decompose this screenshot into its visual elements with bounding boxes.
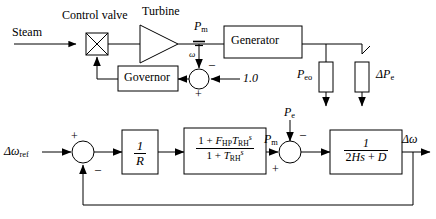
- peo-label: Peo: [297, 68, 312, 83]
- omega-label-top: ω: [189, 50, 195, 59]
- reference-one-label: 1.0: [243, 72, 258, 84]
- turbine-transfer-expression: 1 + FHPTRHs 1 + TRHs: [184, 134, 266, 163]
- pm-label-top: Pm: [194, 20, 208, 35]
- sum1-minus-sign: –: [95, 163, 101, 175]
- sum2-plus-sign: +: [272, 163, 279, 175]
- delta-omega-ref-label: Δωref: [4, 145, 29, 160]
- sum1-plus-sign: +: [71, 130, 78, 142]
- delta-omega-output-label: Δω: [402, 133, 418, 145]
- sum2-minus-sign: –: [300, 128, 306, 140]
- droop-expression: 1 R: [122, 139, 158, 168]
- generator-output-bus: [302, 44, 362, 62]
- control-valve-label: Control valve: [62, 9, 128, 21]
- delta-pe-label: ΔPe: [376, 68, 394, 83]
- bottom-summing-junction-1: [72, 141, 94, 163]
- steam-label: Steam: [12, 26, 42, 38]
- inertia-expression: 1 2Hs + D: [330, 137, 402, 164]
- load-switch-symbol: [362, 46, 370, 54]
- top-sum-minus-sign: –: [209, 58, 215, 70]
- control-valve-symbol: [86, 33, 108, 55]
- turbine-symbol: [140, 25, 178, 63]
- governor-to-valve-line: [97, 57, 118, 79]
- peo-load-block: [319, 62, 333, 106]
- generator-label: Generator: [231, 34, 279, 46]
- diagram-vector-layer: [0, 0, 436, 219]
- turbine-label: Turbine: [142, 5, 180, 17]
- bottom-summing-junction-2: [279, 141, 301, 163]
- figure-canvas: Steam Control valve Turbine Governor Gen…: [0, 0, 436, 219]
- top-summing-junction: [189, 69, 209, 89]
- pm-label-bottom: Pm: [264, 133, 278, 148]
- governor-label: Governor: [124, 71, 170, 83]
- pe-label-bottom: Pe: [284, 106, 295, 121]
- delta-pe-load-block: [355, 62, 369, 106]
- top-sum-plus-sign: +: [195, 88, 202, 100]
